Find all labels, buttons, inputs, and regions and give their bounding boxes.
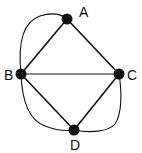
edge-c-d	[74, 74, 119, 130]
edge-a-c	[67, 19, 119, 74]
edge-d-c-curved	[74, 74, 121, 132]
node-c	[114, 69, 125, 80]
edge-b-d	[21, 74, 74, 130]
label-d: D	[70, 137, 80, 153]
graph-diagram: A B C D	[0, 0, 142, 153]
label-c: C	[127, 67, 137, 83]
edge-b-a-curved	[20, 14, 67, 74]
node-b	[16, 69, 27, 80]
node-d	[69, 125, 80, 136]
edge-a-b	[21, 19, 67, 74]
label-b: B	[4, 67, 13, 83]
label-a: A	[79, 4, 89, 20]
node-a	[62, 14, 73, 25]
